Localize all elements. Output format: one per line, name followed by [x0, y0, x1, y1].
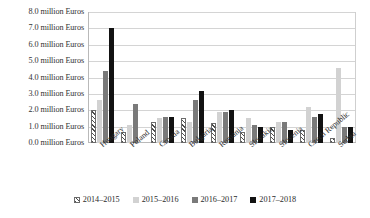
legend-item[interactable]: 2015–2016 — [133, 196, 179, 204]
legend-item[interactable]: 2014–2015 — [74, 196, 120, 204]
bar — [91, 110, 96, 143]
bar-group — [148, 12, 178, 143]
chart-legend: 2014–20152015–20162016–20172017–2018 — [0, 196, 370, 204]
legend-item[interactable]: 2016–2017 — [192, 196, 238, 204]
y-axis-tick-label: 2.0 million Euros — [29, 106, 84, 114]
bar — [97, 100, 102, 143]
y-axis-tick-label: 6.0 million Euros — [29, 41, 84, 49]
y-axis-tick-label: 7.0 million Euros — [29, 24, 84, 32]
legend-swatch-icon — [250, 197, 256, 203]
bar-chart: 8.0 million Euros7.0 million Euros6.0 mi… — [0, 0, 370, 218]
legend-swatch-icon — [74, 197, 80, 203]
bar — [336, 68, 341, 143]
y-axis-tick-label: 0.0 million Euros — [29, 139, 84, 147]
y-axis-tick-label: 5.0 million Euros — [29, 57, 84, 65]
bar — [151, 122, 156, 143]
bar-group — [237, 12, 267, 143]
bar-groups — [88, 12, 356, 143]
bar — [109, 28, 114, 143]
bar-group — [267, 12, 297, 143]
y-axis-tick-label: 3.0 million Euros — [29, 90, 84, 98]
bar-group — [88, 12, 118, 143]
legend-label: 2017–2018 — [259, 196, 296, 204]
legend-label: 2016–2017 — [201, 196, 238, 204]
bar — [181, 118, 186, 143]
x-axis-labels: HungaryPolandCroatiaBulgariaRomaniaSlova… — [88, 143, 356, 191]
legend-label: 2014–2015 — [83, 196, 120, 204]
y-axis-tick-label: 1.0 million Euros — [29, 123, 84, 131]
legend-swatch-icon — [192, 197, 198, 203]
y-axis-tick-label: 4.0 million Euros — [29, 73, 84, 81]
bar-group — [296, 12, 326, 143]
bar — [103, 71, 108, 143]
legend-item[interactable]: 2017–2018 — [250, 196, 296, 204]
bar-group — [177, 12, 207, 143]
y-axis-labels: 8.0 million Euros7.0 million Euros6.0 mi… — [0, 12, 84, 143]
bar-group — [118, 12, 148, 143]
legend-swatch-icon — [133, 197, 139, 203]
plot-area — [88, 12, 356, 143]
legend-label: 2015–2016 — [142, 196, 179, 204]
bar-group — [207, 12, 237, 143]
y-axis-tick-label: 8.0 million Euros — [29, 8, 84, 16]
